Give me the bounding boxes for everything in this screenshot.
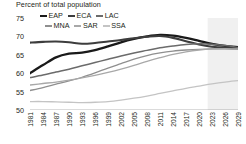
x-tick-label: 2017 xyxy=(183,112,190,127)
x-tick-label: 2011 xyxy=(157,112,164,126)
x-tick-label: 1984 xyxy=(40,112,47,127)
y-tick-label: 55 xyxy=(16,87,24,96)
plot-area xyxy=(30,18,238,110)
legend-swatch-eap xyxy=(40,15,47,17)
chart-container: Percent of total population EAP ECA LAC … xyxy=(0,0,246,144)
x-tick-label: 1996 xyxy=(92,112,99,127)
y-tick-label: 70 xyxy=(16,32,24,41)
x-tick-label: 1987 xyxy=(53,112,60,127)
x-tick-label: 1999 xyxy=(105,112,112,127)
y-axis: 757065605550 xyxy=(0,18,28,110)
forecast-band-group xyxy=(208,18,238,110)
x-tick-label: 2020 xyxy=(196,112,203,127)
x-tick-label: 2029 xyxy=(235,112,242,127)
x-tick-label: 1990 xyxy=(66,112,73,127)
x-tick-label: 2008 xyxy=(144,112,151,127)
series-line-ssa xyxy=(30,81,238,103)
legend-swatch-eca xyxy=(68,15,75,17)
forecast-shading xyxy=(208,18,238,110)
x-tick-label: 2023 xyxy=(209,112,216,127)
y-tick-label: 60 xyxy=(16,69,24,78)
y-tick-label: 75 xyxy=(16,14,24,23)
chart-svg xyxy=(30,18,238,110)
legend-swatch-lac xyxy=(96,15,103,17)
x-tick-label: 1993 xyxy=(79,112,86,127)
x-tick-label: 1981 xyxy=(27,112,34,127)
y-tick-label: 50 xyxy=(16,106,24,115)
x-tick-label: 2026 xyxy=(222,112,229,127)
x-tick-label: 2014 xyxy=(170,112,177,127)
x-tick-label: 2005 xyxy=(131,112,138,127)
y-tick-label: 65 xyxy=(16,50,24,59)
chart-title: Percent of total population xyxy=(16,0,101,9)
series-paths-group xyxy=(30,35,238,103)
series-line-eap xyxy=(30,35,238,73)
x-axis: 1981198419871990199319961999200220052008… xyxy=(30,112,238,144)
x-tick-label: 2002 xyxy=(118,112,125,127)
series-line-sar xyxy=(30,49,238,85)
